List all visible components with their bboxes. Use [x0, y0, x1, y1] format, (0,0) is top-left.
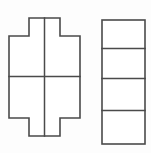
rectangle-figure	[102, 20, 145, 144]
cross-figure	[9, 18, 80, 136]
figure-canvas	[0, 0, 151, 153]
divided-rectangle-outline	[102, 20, 145, 144]
figures-diagram	[0, 0, 151, 153]
